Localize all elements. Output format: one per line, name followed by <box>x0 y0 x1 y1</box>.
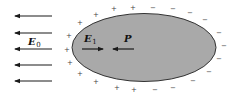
plus-charge-icon: + <box>77 19 83 27</box>
minus-charge-icon: − <box>221 42 227 50</box>
polarized-ellipsoid-diagram: E0 E1 P +++++++++++ −−−−−−−−−−− <box>0 0 237 93</box>
minus-charge-icon: − <box>190 77 196 85</box>
minus-charge-icon: − <box>152 86 158 94</box>
plus-charge-icon: + <box>93 78 99 86</box>
plus-charge-icon: + <box>111 5 117 13</box>
plus-charge-icon: + <box>131 86 137 94</box>
minus-charge-icon: − <box>202 16 208 24</box>
plus-charge-icon: + <box>67 59 73 67</box>
plus-charge-icon: + <box>66 32 72 40</box>
plus-charge-icon: + <box>64 46 70 54</box>
plus-charge-icon: + <box>77 70 83 78</box>
minus-charge-icon: − <box>170 5 176 13</box>
external-field-arrows <box>15 16 52 81</box>
external-field-label: E0 <box>27 36 41 49</box>
minus-charge-icon: − <box>216 55 222 63</box>
plus-charge-icon: + <box>130 4 136 12</box>
minus-charge-icon: − <box>150 4 156 12</box>
minus-charge-icon: − <box>187 9 193 17</box>
plus-charge-icon: + <box>114 84 120 92</box>
plus-charge-icon: + <box>93 11 99 19</box>
dielectric-ellipsoid <box>72 14 216 82</box>
minus-charge-icon: − <box>206 68 212 76</box>
polarization-label: P <box>123 33 132 44</box>
minus-charge-icon: − <box>170 84 176 92</box>
minus-charge-icon: − <box>216 29 222 37</box>
